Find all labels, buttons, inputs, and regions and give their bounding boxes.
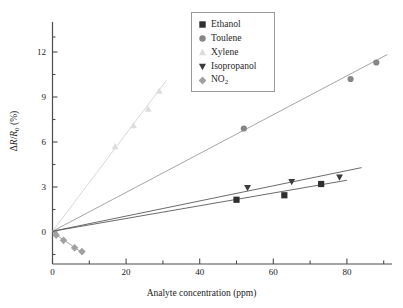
data-point	[318, 181, 324, 187]
data-point	[156, 87, 163, 93]
y-tick-label: 3	[30, 182, 46, 192]
data-point	[347, 76, 353, 82]
legend-label: NO2	[209, 74, 228, 86]
y-label-delta: Δ	[9, 145, 19, 151]
triangle-down-icon	[196, 60, 209, 73]
y-tick-label: 0	[30, 227, 46, 237]
x-tick-label: 60	[269, 267, 278, 277]
y-label-r: R	[9, 139, 19, 145]
y-tick-label: 12	[30, 47, 46, 57]
legend-label: Ethanol	[209, 19, 241, 29]
y-axis-label: ΔR/R0 (%)	[3, 41, 21, 221]
y-tick-label: 9	[30, 92, 46, 102]
legend-item-no[interactable]: NO2	[196, 73, 269, 87]
legend-item-xylene[interactable]: Xylene	[196, 45, 269, 59]
square-icon	[196, 18, 209, 31]
y-label-slash: /	[9, 137, 19, 140]
data-point	[281, 192, 287, 198]
x-tick-label: 80	[342, 267, 351, 277]
legend-item-isopropanol[interactable]: Isopropanol	[196, 59, 269, 73]
legend-label: Xylene	[209, 47, 238, 57]
x-tick-label: 40	[195, 267, 204, 277]
y-label-percent: (%)	[9, 111, 19, 128]
legend-label-subscript: 2	[225, 78, 229, 86]
data-point	[241, 125, 247, 131]
x-tick-label: 20	[122, 267, 131, 277]
fit-line-isopropanol	[53, 168, 362, 232]
legend-item-toulene[interactable]: Toulene	[196, 31, 269, 45]
triangle-up-icon	[196, 46, 209, 59]
y-label-subscript: 0	[13, 127, 21, 131]
series-xylene	[112, 87, 163, 149]
diamond-icon	[196, 74, 209, 87]
legend: EthanolTouleneXyleneIsopropanolNO2	[191, 12, 275, 92]
y-label-r0: R	[9, 131, 19, 137]
data-point	[373, 59, 379, 65]
data-point	[130, 122, 137, 128]
data-point	[145, 105, 152, 111]
y-tick-label: 6	[30, 137, 46, 147]
circle-icon	[196, 32, 209, 45]
data-point	[71, 244, 78, 252]
x-tick-label: 0	[50, 267, 55, 277]
legend-label: Isopropanol	[209, 61, 256, 71]
x-axis-label: Analyte concentration (ppm)	[0, 288, 403, 298]
legend-label: Toulene	[209, 33, 241, 43]
data-point	[336, 175, 343, 181]
fit-line-ethanol	[53, 180, 347, 231]
fit-line-xylene	[53, 80, 167, 231]
legend-item-ethanol[interactable]: Ethanol	[196, 17, 269, 31]
data-point	[112, 143, 119, 149]
data-point	[78, 248, 85, 256]
data-point	[233, 197, 239, 203]
chart-figure: 020406080036912 Analyte concentration (p…	[0, 0, 403, 308]
